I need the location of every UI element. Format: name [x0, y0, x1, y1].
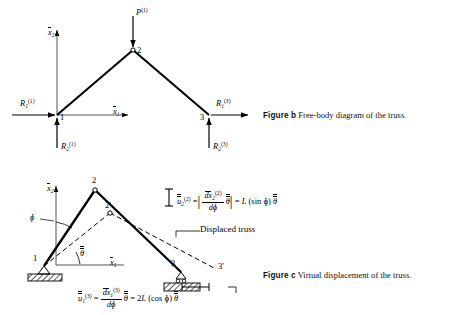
figure-b-caption-text: Free-body diagram of the truss. — [298, 110, 406, 120]
figure-b-truss-members — [57, 50, 209, 115]
roller-wheel-left — [176, 279, 180, 283]
displaced-member-2p-3p — [110, 213, 214, 268]
displaced-truss-label: Displaced truss — [200, 224, 255, 234]
angle-leader-phi — [40, 219, 54, 221]
equation-leader-horizontal — [228, 287, 236, 293]
reaction-label-R1-node3: R1(3) — [216, 99, 231, 110]
figure-c-caption-head: Figure c — [263, 271, 296, 280]
equation-horizontal-displacement: u1(3) = dx1(3) dɸ θ = 2L (cos ɸ) θ — [78, 288, 178, 310]
node-marker-2 — [131, 48, 135, 52]
node-marker-2p — [108, 211, 112, 215]
angle-label-theta: θ — [80, 246, 84, 258]
reaction-label-R2-node3: R2(3) — [213, 142, 228, 153]
figure-c-truss-displaced — [44, 211, 214, 268]
axis-label-x2-c: x2 — [47, 183, 54, 195]
reaction-label-R2-node1: R2(1) — [61, 142, 76, 153]
roller-support-triangle — [176, 272, 186, 279]
node-label-2-c: 2 — [92, 176, 96, 185]
node-label-3-c: 3 — [171, 259, 175, 268]
figure-b-caption: Figure b Free-body diagram of the truss. — [263, 110, 443, 121]
axis-label-x1-c: x1 — [110, 257, 117, 269]
node-label-3-b: 3 — [200, 113, 204, 122]
figure-c-caption-text: Virtual displacement of the truss. — [298, 270, 412, 280]
pin-support-triangle — [38, 266, 50, 274]
node-label-3p-c: 3' — [218, 262, 224, 271]
figure-b-node-markers — [131, 48, 135, 52]
truss-member-1-2 — [57, 50, 133, 115]
figure-b-drawing — [0, 0, 452, 315]
pin-support-ground — [28, 274, 62, 281]
node-label-2-b: 2 — [137, 46, 141, 55]
node-label-1-b: 1 — [60, 113, 64, 122]
roller-wheel-right — [182, 279, 186, 283]
node-marker-2-c — [93, 188, 97, 192]
displaced-truss-leader — [176, 231, 200, 237]
node-label-2p-c: 2' — [105, 201, 111, 210]
axis-label-x1-b: x1 — [113, 106, 120, 118]
truss-member-2-3 — [133, 50, 209, 115]
angle-label-phi: ɸ — [30, 214, 34, 222]
equation-vertical-displacement: u2(2) =| dx2(2) dɸ θ| = L (sin ɸ) θ — [177, 191, 277, 213]
figure-c-caption: Figure c Virtual displacement of the tru… — [263, 270, 443, 281]
figure-b-caption-head: Figure b — [263, 111, 296, 120]
load-label-P: P(1) — [136, 8, 148, 17]
node-label-1-c: 1 — [33, 254, 37, 263]
reaction-label-R1-node1: R1(1) — [20, 99, 35, 110]
figure-b-axes — [57, 30, 128, 115]
figure-b-panel: x2 x1 P(1) 2 1 3 R1(1) R2(1) R1(3) R2(3)… — [0, 0, 452, 315]
axis-label-x2-b: x2 — [48, 27, 55, 39]
truss-member-1-2-c — [44, 190, 95, 266]
